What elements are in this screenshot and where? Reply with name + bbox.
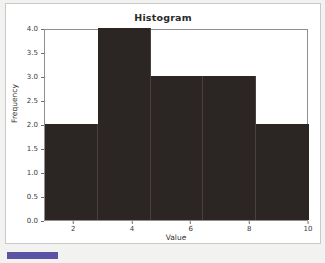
x-axis-tick: 6 (188, 221, 192, 233)
plot-area (44, 29, 308, 221)
x-axis-tick: 4 (130, 221, 134, 233)
x-axis-tick-label: 8 (247, 225, 251, 233)
chart-card: Histogram Frequency 0.00.51.01.52.02.53.… (5, 3, 321, 244)
y-axis-tick-label: 2.0 (27, 121, 41, 129)
x-axis-label: Value (44, 233, 308, 242)
y-axis-tick-label: 2.5 (27, 97, 41, 105)
histogram-bar (98, 28, 151, 220)
histogram-figure: Histogram Frequency 0.00.51.01.52.02.53.… (6, 4, 320, 243)
x-axis-tick-mark (132, 221, 133, 224)
histogram-bar (203, 76, 256, 220)
y-axis-tick-label: 1.0 (27, 169, 41, 177)
progress-accent-bar[interactable] (7, 252, 58, 259)
histogram-bar (256, 124, 309, 220)
y-axis-tick: 4.0 (27, 25, 44, 33)
x-axis-tick: 2 (71, 221, 75, 233)
y-axis-tick-label: 3.0 (27, 73, 41, 81)
x-axis-tick-mark (307, 221, 308, 224)
y-axis-tick: 3.0 (27, 73, 44, 81)
histogram-bars (45, 30, 307, 220)
y-axis-tick: 3.5 (27, 49, 44, 57)
y-axis-tick: 1.0 (27, 169, 44, 177)
y-axis-tick: 0.0 (27, 217, 44, 225)
histogram-bar (45, 124, 98, 220)
y-axis-tick: 1.5 (27, 145, 44, 153)
chart-title: Histogram (6, 12, 320, 23)
x-axis-tick-label: 10 (304, 225, 313, 233)
x-axis-tick-mark (190, 221, 191, 224)
y-axis-tick-group: 0.00.51.01.52.02.53.03.54.0 (6, 29, 44, 221)
x-axis-tick: 10 (304, 221, 313, 233)
x-axis-tick-mark (73, 221, 74, 224)
x-axis-tick-label: 2 (71, 225, 75, 233)
y-axis-tick-label: 3.5 (27, 49, 41, 57)
x-axis-tick-label: 6 (188, 225, 192, 233)
y-axis-tick-label: 0.5 (27, 193, 41, 201)
y-axis-tick: 0.5 (27, 193, 44, 201)
y-axis-tick: 2.5 (27, 97, 44, 105)
y-axis-tick: 2.0 (27, 121, 44, 129)
footer-strip (0, 248, 325, 263)
y-axis-tick-label: 4.0 (27, 25, 41, 33)
x-axis-tick: 8 (247, 221, 251, 233)
x-axis-tick-label: 4 (130, 225, 134, 233)
x-axis-tick-mark (249, 221, 250, 224)
y-axis-tick-label: 1.5 (27, 145, 41, 153)
y-axis-tick-label: 0.0 (27, 217, 41, 225)
histogram-bar (151, 76, 204, 220)
